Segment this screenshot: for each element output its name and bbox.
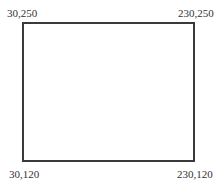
diagram-canvas: 30,250 230,250 30,120 230,120: [0, 0, 224, 187]
corner-label-top-left: 30,250: [7, 7, 37, 19]
corner-label-top-right: 230,250: [178, 7, 214, 19]
rectangle: [22, 22, 195, 162]
corner-label-bottom-right: 230,120: [177, 168, 213, 180]
corner-label-bottom-left: 30,120: [9, 168, 39, 180]
